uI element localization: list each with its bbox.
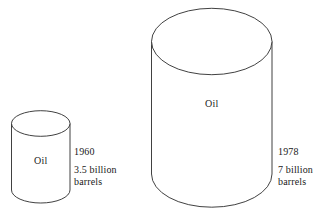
cylinder-1960-amount-label: 3.5 billion barrels: [74, 164, 117, 187]
cylinder-1960-year-label: 1960: [74, 146, 95, 158]
cylinder-1978-amount-value: 7 billion: [278, 164, 313, 176]
cylinder-1960-body-label: Oil: [34, 155, 47, 166]
cylinder-1960-top-ellipse: [12, 111, 71, 137]
cylinder-1960-amount-value: 3.5 billion: [74, 164, 117, 176]
cylinder-1978-top-ellipse: [152, 8, 273, 74]
cylinder-1978-year-label: 1978: [278, 146, 299, 158]
cylinder-1978-amount-unit: barrels: [278, 176, 313, 188]
cylinder-1960: Oil: [12, 111, 71, 203]
cylinder-1978-body-label: Oil: [205, 98, 218, 109]
cylinder-1978-amount-label: 7 billion barrels: [278, 164, 313, 187]
cylinder-1978: Oil: [152, 8, 273, 207]
cylinder-1960-amount-unit: barrels: [74, 176, 117, 188]
